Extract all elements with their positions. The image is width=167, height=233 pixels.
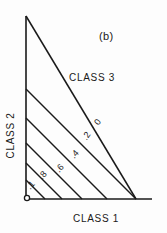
contour-line-5 (26, 89, 136, 199)
panel-label: (b) (99, 30, 113, 42)
plot-area (0, 0, 167, 233)
x-axis-label: CLASS 1 (73, 213, 119, 224)
origin-marker-icon (24, 195, 29, 200)
figure-panel-b: .1 .8 .6 .4 .2 0 (b) CLASS 3 CLASS 1 CLA… (0, 0, 167, 233)
y-axis-label: CLASS 2 (5, 112, 16, 158)
class3-region-label: CLASS 3 (69, 72, 115, 83)
